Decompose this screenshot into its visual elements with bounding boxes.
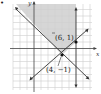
graph: (6, 1) (4, −1) y x •: [0, 0, 101, 94]
bullet: •: [0, 0, 4, 7]
point-4-neg1: [60, 53, 63, 56]
point-6-1: [74, 40, 77, 43]
arrow-icon: [30, 77, 34, 81]
point-label-4-neg1: (4, −1): [46, 66, 71, 74]
point-label-6-1: (6, 1): [55, 34, 74, 42]
y-axis-label: y: [27, 0, 32, 7]
y-axis-arrow-icon: [33, 1, 36, 5]
x-axis-label: x: [96, 50, 100, 57]
